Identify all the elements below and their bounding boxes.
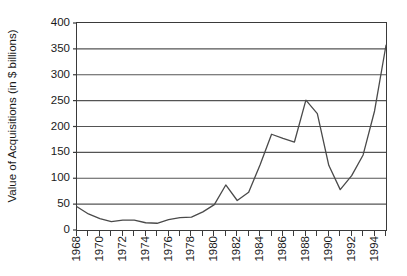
- y-axis-tick-label: 250: [51, 94, 70, 106]
- y-axis-tick-label: 50: [57, 197, 70, 209]
- x-axis-tick-label: 1982: [230, 236, 242, 262]
- y-axis-tick-labels: 050100150200250300350400: [24, 0, 74, 240]
- x-axis-tick-label: 1976: [162, 236, 174, 262]
- y-axis-tick-label: 300: [51, 68, 70, 80]
- x-axis-tick-label: 1980: [207, 236, 219, 262]
- x-axis-tick-label: 1984: [253, 236, 265, 262]
- x-axis-tick-label: 1992: [345, 236, 357, 262]
- x-axis-tick-label: 1988: [299, 236, 311, 262]
- y-axis-tick-label: 400: [51, 16, 70, 28]
- chart-container: Value of Acquisitions (in $ billions) 05…: [0, 0, 407, 276]
- y-axis-tick-label: 0: [64, 223, 70, 235]
- data-series-line: [77, 45, 386, 223]
- x-axis-tick-label: 1972: [116, 236, 128, 262]
- x-axis-tick-label: 1994: [368, 236, 380, 262]
- x-axis-tick-label: 1986: [276, 236, 288, 262]
- x-axis-tick-label: 1978: [184, 236, 196, 262]
- x-axis-tick-label: 1974: [139, 236, 151, 262]
- x-axis-tick-label: 1970: [93, 236, 105, 262]
- plot-area: [76, 22, 387, 231]
- x-axis-tick-label: 1968: [70, 236, 82, 262]
- y-axis-tick-label: 150: [51, 145, 70, 157]
- y-axis-tick-label: 200: [51, 120, 70, 132]
- y-axis-tick-label: 350: [51, 42, 70, 54]
- x-axis-tick-label: 1990: [322, 236, 334, 262]
- y-axis-tick-label: 100: [51, 171, 70, 183]
- data-line-group: [77, 23, 386, 230]
- x-axis-tick-labels: 1968197019721974197619781980198219841986…: [0, 236, 407, 276]
- y-axis-label: Value of Acquisitions (in $ billions): [6, 29, 18, 202]
- y-axis-label-container: Value of Acquisitions (in $ billions): [0, 0, 24, 232]
